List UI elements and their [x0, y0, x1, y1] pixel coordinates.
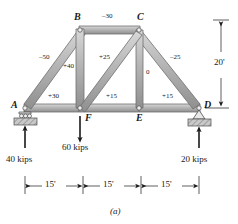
joint-label-F: F: [85, 113, 92, 123]
force-label-ED: +15: [162, 93, 173, 100]
force-label-BF: +40: [63, 63, 74, 70]
joint-pin-E: [137, 106, 141, 110]
truss-drawing: [0, 0, 238, 224]
joint-label-E: E: [136, 113, 143, 123]
force-label-FC: +25: [99, 54, 110, 61]
dimension-label-span-3: 15': [161, 180, 172, 189]
joint-pin-A: [23, 106, 27, 110]
force-label-AF: +30: [48, 93, 59, 100]
force-label-AB: –50: [39, 54, 50, 61]
truss-figure: A B C D E F –30 –50 –25 +40 +25 0 +30 +1…: [0, 0, 238, 224]
force-label-CD: –25: [170, 54, 181, 61]
joint-label-A: A: [11, 100, 18, 110]
joint-pin-F: [78, 106, 82, 110]
load-label-A: 40 kips: [6, 155, 32, 164]
dimension-label-height: 20': [214, 58, 225, 67]
dimension-label-span-2: 15': [103, 180, 114, 189]
roller-support-A: [14, 112, 37, 125]
joint-label-C: C: [137, 12, 144, 22]
load-arrows: [25, 116, 199, 148]
joint-pin-B: [78, 28, 82, 32]
dimension-label-span-1: 15': [45, 180, 56, 189]
load-label-F: 60 kips: [62, 143, 88, 152]
joint-pin-C: [137, 28, 141, 32]
figure-caption: (a): [110, 207, 121, 216]
load-label-D: 20 kips: [181, 155, 207, 164]
member-BF: [76, 29, 84, 108]
joint-label-B: B: [74, 12, 81, 22]
force-label-FE: +15: [106, 93, 117, 100]
joint-label-D: D: [204, 100, 211, 110]
force-label-CE: 0: [146, 69, 150, 76]
member-BC: [79, 26, 140, 34]
force-label-BC: –30: [102, 13, 113, 20]
